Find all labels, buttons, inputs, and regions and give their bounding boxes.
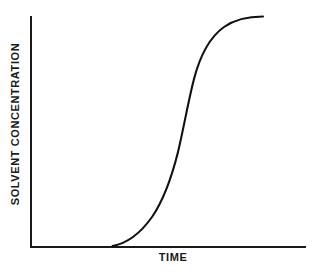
- y-axis-label-container: SOLVENT CONCENTRATION: [0, 0, 30, 247]
- data-curve-sigmoid: [113, 17, 264, 247]
- chart-plot-area: [0, 0, 318, 277]
- x-axis-label: TIME: [0, 251, 318, 263]
- solvent-concentration-chart: SOLVENT CONCENTRATION TIME: [0, 0, 318, 277]
- y-axis-label: SOLVENT CONCENTRATION: [9, 42, 21, 205]
